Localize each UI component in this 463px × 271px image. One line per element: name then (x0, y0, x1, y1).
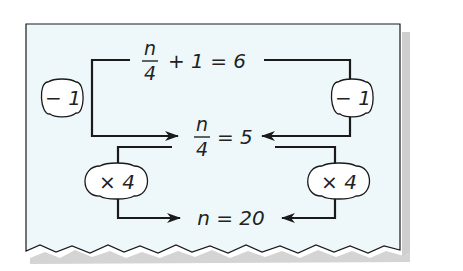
op-bubble-right-upper: − 1 (331, 79, 373, 117)
middle-numerator: n (196, 113, 208, 135)
top-numerator: n (144, 37, 156, 59)
op-label: − 1 (45, 86, 81, 110)
middle-rest: = 5 (217, 125, 253, 149)
equation-bottom: n = 20 (197, 206, 265, 230)
top-rest: + 1 = 6 (168, 49, 246, 73)
op-label: − 1 (335, 86, 371, 110)
middle-denominator: 4 (196, 138, 208, 160)
panel-shadow (402, 32, 410, 258)
op-bubble-left-lower: × 4 (85, 163, 148, 199)
op-label: × 4 (99, 170, 135, 194)
equation-diagram: n 4 + 1 = 6 − 1 − 1 n 4 = 5 × 4 × 4 n = … (0, 0, 463, 271)
op-label: × 4 (321, 170, 357, 194)
top-denominator: 4 (144, 62, 156, 84)
op-bubble-right-lower: × 4 (308, 163, 370, 199)
op-bubble-left-upper: − 1 (41, 79, 83, 117)
